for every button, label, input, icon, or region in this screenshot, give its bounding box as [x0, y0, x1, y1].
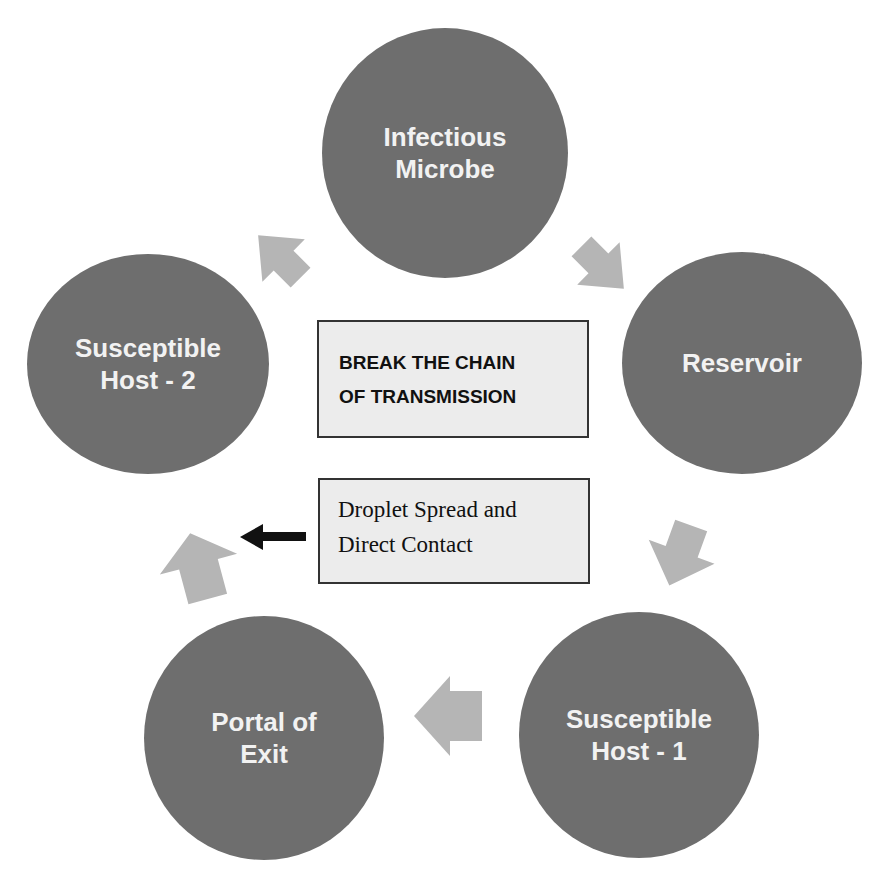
node-susceptible-host-1: Susceptible Host - 1 [519, 612, 759, 858]
cycle-arrow-reservoir-to-host1 [636, 513, 724, 597]
node-label-line2: Host - 2 [75, 364, 221, 397]
node-label-line1: Reservoir [682, 347, 802, 380]
node-susceptible-host-2: Susceptible Host - 2 [27, 254, 269, 474]
transmission-mode-box: Droplet Spread and Direct Contact [318, 478, 590, 584]
node-infectious-microbe: Infectious Microbe [322, 28, 568, 278]
cycle-arrow-host2-to-microbe [237, 214, 322, 299]
node-portal-of-exit: Portal of Exit [144, 616, 384, 860]
center-title-line2: OF TRANSMISSION [339, 380, 587, 414]
node-label-line1: Susceptible [566, 703, 712, 736]
cycle-arrow-portal-to-host2 [152, 523, 247, 609]
node-label-line1: Infectious [384, 121, 507, 154]
transmission-mode-line1: Droplet Spread and [338, 492, 588, 527]
center-title-line1: BREAK THE CHAIN [339, 346, 587, 380]
node-label-line2: Host - 1 [566, 735, 712, 768]
node-reservoir: Reservoir [622, 252, 862, 474]
cycle-arrow-host1-to-portal [414, 676, 482, 756]
node-label-line1: Susceptible [75, 332, 221, 365]
center-title-box: BREAK THE CHAIN OF TRANSMISSION [317, 320, 589, 438]
transmission-mode-line2: Direct Contact [338, 527, 588, 562]
node-label-line1: Portal of [211, 706, 316, 739]
node-label-line2: Exit [211, 738, 316, 771]
node-label-line2: Microbe [384, 153, 507, 186]
pointer-arrow-left-icon [240, 524, 306, 550]
cycle-arrow-microbe-to-reservoir [560, 225, 645, 310]
